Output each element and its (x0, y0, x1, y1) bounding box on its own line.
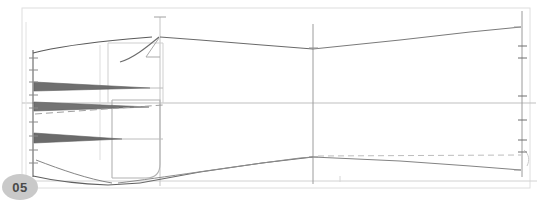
drawing-canvas: 05 (0, 0, 541, 200)
right-end-cap (514, 27, 521, 170)
top-outline-path-far-right (313, 27, 521, 49)
technical-drawing (0, 0, 541, 200)
top-outline-path-right (160, 37, 313, 49)
bottom-outline-path-mid (140, 157, 313, 183)
inner-construction-rect (108, 43, 163, 103)
top-outline-path (33, 37, 152, 53)
shoulder-triangle-notch (146, 38, 160, 57)
bottom-outline-path-right (313, 157, 521, 170)
shoulder-curve (120, 37, 159, 62)
bottom-inner-path (36, 160, 112, 183)
dart-lower (34, 133, 122, 143)
dart-upper (34, 82, 150, 91)
badge-label: 05 (12, 181, 27, 194)
dashed-guide-right (318, 155, 521, 156)
page-number-badge[interactable]: 05 (2, 174, 38, 200)
